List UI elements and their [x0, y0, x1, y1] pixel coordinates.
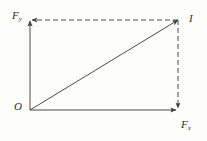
x-axis-label: Fx: [181, 119, 191, 130]
y-axis-label: Fy: [12, 10, 22, 21]
resultant-vector-line: [30, 20, 178, 110]
y-axis-label-symbol: F: [12, 9, 19, 21]
x-axis-label-subscript: x: [188, 124, 191, 131]
x-axis-label-symbol: F: [181, 118, 188, 130]
resultant-point-label: I: [189, 13, 193, 24]
y-axis-label-subscript: y: [19, 15, 22, 22]
vector-diagram: [0, 0, 207, 141]
origin-label: O: [14, 101, 22, 112]
vector-decomposition-figure: Fy Fx O I: [0, 0, 207, 141]
